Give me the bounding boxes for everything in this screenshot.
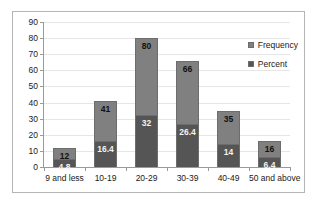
- y-axis-tick-mark: [40, 86, 44, 87]
- gridline: [44, 22, 290, 23]
- y-axis-tick-label: 30: [29, 114, 38, 124]
- y-axis-tick-mark: [40, 54, 44, 55]
- bar-label-frequency: 35: [224, 112, 233, 124]
- y-axis-tick-label: 20: [29, 130, 38, 140]
- bar-label-frequency: 66: [183, 62, 192, 74]
- y-axis-tick-mark: [40, 38, 44, 39]
- bar-segment-frequency[interactable]: 12: [53, 148, 76, 160]
- bar-group[interactable]: 8032: [135, 38, 158, 167]
- y-axis-tick-mark: [40, 70, 44, 71]
- bar-segment-frequency[interactable]: 80: [135, 38, 158, 115]
- bar-segment-percent[interactable]: 32: [135, 115, 158, 167]
- bar-group[interactable]: 124.8: [53, 148, 76, 167]
- y-axis-tick-mark: [40, 103, 44, 104]
- x-axis-category-label: 40-49: [208, 173, 249, 183]
- y-axis-tick-label: 10: [29, 146, 38, 156]
- bar-segment-percent[interactable]: 26.4: [176, 124, 199, 167]
- gridline: [44, 103, 290, 104]
- bar-group[interactable]: 4116.4: [94, 101, 117, 167]
- y-axis-tick-label: 70: [29, 49, 38, 59]
- bar-segment-frequency[interactable]: 16: [258, 141, 281, 156]
- y-axis-tick-label: 60: [29, 65, 38, 75]
- legend-item-percent: Percent: [248, 59, 298, 69]
- bar-segment-percent[interactable]: 6.4: [258, 157, 281, 167]
- x-axis-tick-mark: [167, 167, 168, 171]
- y-axis-tick-label: 80: [29, 33, 38, 43]
- x-axis-category-label: 30-39: [167, 173, 208, 183]
- x-axis-category-label: 9 and less: [44, 173, 85, 183]
- legend-swatch-frequency-icon: [248, 42, 254, 48]
- gridline: [44, 38, 290, 39]
- bar-label-percent: 32: [142, 116, 151, 128]
- x-axis-tick-mark: [126, 167, 127, 171]
- y-axis-tick-mark: [40, 135, 44, 136]
- gridline: [44, 135, 290, 136]
- x-axis-category-label: 50 and above: [249, 173, 290, 183]
- bar-segment-frequency[interactable]: 66: [176, 61, 199, 125]
- legend-item-frequency: Frequency: [248, 40, 298, 50]
- bar-segment-frequency[interactable]: 35: [217, 111, 240, 145]
- bar-group[interactable]: 166.4: [258, 141, 281, 167]
- bar-group[interactable]: 3514: [217, 111, 240, 167]
- x-axis-tick-mark: [208, 167, 209, 171]
- y-axis-tick-mark: [40, 22, 44, 23]
- y-axis-tick-label: 40: [29, 98, 38, 108]
- x-axis-tick-mark: [290, 167, 291, 171]
- y-axis-tick-label: 0: [33, 162, 38, 172]
- bar-label-frequency: 16: [265, 142, 274, 154]
- bar-label-percent: 26.4: [179, 125, 196, 137]
- bar-label-percent: 4.8: [59, 160, 71, 172]
- bar-group[interactable]: 6626.4: [176, 61, 199, 167]
- bar-segment-percent[interactable]: 14: [217, 144, 240, 167]
- legend-label-percent: Percent: [258, 59, 287, 69]
- gridline: [44, 119, 290, 120]
- x-axis-category-label: 10-19: [85, 173, 126, 183]
- x-axis-tick-mark: [249, 167, 250, 171]
- bar-label-frequency: 80: [142, 39, 151, 51]
- bar-label-frequency: 41: [101, 102, 110, 114]
- bar-segment-frequency[interactable]: 41: [94, 101, 117, 141]
- bar-segment-percent[interactable]: 16.4: [94, 141, 117, 167]
- y-axis-tick-mark: [40, 151, 44, 152]
- gridline: [44, 86, 290, 87]
- legend-swatch-percent-icon: [248, 61, 254, 67]
- legend-label-frequency: Frequency: [258, 40, 298, 50]
- x-axis-category-label: 20-29: [126, 173, 167, 183]
- y-axis-tick-mark: [40, 119, 44, 120]
- bar-segment-percent[interactable]: 4.8: [53, 159, 76, 167]
- chart-container: 9080706050403020100124.89 and less4116.4…: [12, 11, 305, 193]
- chart-legend: Frequency Percent: [248, 40, 298, 78]
- x-axis-tick-mark: [44, 167, 45, 171]
- bar-label-percent: 14: [224, 145, 233, 157]
- bar-label-percent: 6.4: [264, 158, 276, 170]
- y-axis-tick-label: 90: [29, 17, 38, 27]
- x-axis-tick-mark: [85, 167, 86, 171]
- bar-label-percent: 16.4: [97, 142, 114, 154]
- gridline: [44, 151, 290, 152]
- y-axis-tick-label: 50: [29, 81, 38, 91]
